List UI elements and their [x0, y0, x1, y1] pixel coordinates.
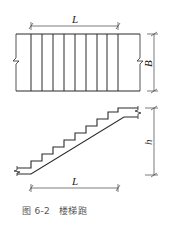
section-height-label: h: [142, 139, 154, 145]
section-step-profile: [17, 108, 138, 168]
figure-number: 图 6-2: [22, 206, 50, 216]
section-soffit-line: [17, 117, 138, 174]
plan-view: [13, 34, 143, 91]
plan-left-break-mark: [13, 34, 19, 91]
stair-flight-diagram: L B h L: [0, 0, 172, 232]
plan-tread-lines: [31, 34, 118, 91]
plan-width-label: B: [142, 60, 154, 67]
section-length-label: L: [71, 175, 78, 187]
section-view: [14, 106, 141, 176]
plan-length-label: L: [71, 13, 78, 25]
figure-caption: 图 6-2楼梯跑: [22, 204, 87, 217]
figure-title: 楼梯跑: [59, 206, 87, 216]
